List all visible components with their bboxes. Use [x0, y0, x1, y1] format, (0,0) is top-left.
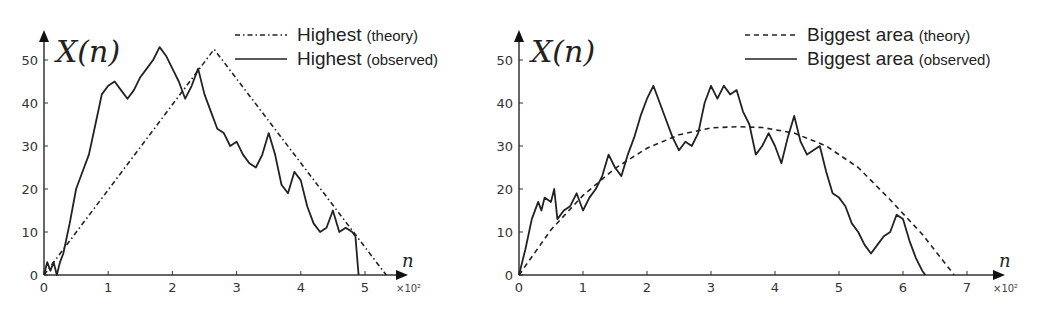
- x-tick-label: 0: [515, 280, 523, 295]
- y-axis-label: X(n): [54, 34, 120, 69]
- y-tick-label: 50: [496, 53, 513, 68]
- legend-entry: Highest(theory): [297, 24, 418, 45]
- x-tick-label: 1: [579, 280, 587, 295]
- x-tick-label: 4: [771, 280, 779, 295]
- x-axis-label: n: [999, 250, 1011, 271]
- chart-highest-plot: 01234501020304050X(n)n×10²Highest(theory…: [0, 0, 520, 309]
- x-tick-label: 1: [104, 280, 112, 295]
- y-axis-arrow-icon: [514, 30, 524, 42]
- y-tick-label: 40: [496, 96, 513, 111]
- y-tick-label: 40: [21, 96, 38, 111]
- y-tick-label: 20: [496, 182, 513, 197]
- y-tick-label: 50: [21, 53, 38, 68]
- legend-entry: Biggest area(observed): [807, 48, 990, 69]
- x-tick-label: 0: [40, 280, 48, 295]
- x-axis-label: n: [402, 250, 414, 271]
- x-axis-arrow-icon: [993, 270, 1005, 280]
- x-tick-label: 2: [643, 280, 651, 295]
- y-axis-arrow-icon: [39, 30, 49, 42]
- x-axis-arrow-icon: [396, 270, 408, 280]
- x-tick-label: 7: [963, 280, 971, 295]
- y-axis-label: X(n): [529, 34, 595, 69]
- y-tick-label: 20: [21, 182, 38, 197]
- y-tick-label: 0: [505, 268, 513, 283]
- chart-biggest-area: 0123456701020304050X(n)n×10²Biggest area…: [475, 0, 1047, 309]
- theory-series-line: [519, 127, 954, 275]
- observed-series-line: [519, 86, 925, 275]
- x-tick-label: 3: [707, 280, 715, 295]
- x-tick-label: 5: [361, 280, 369, 295]
- theory-series-line: [44, 49, 386, 275]
- legend-entry: Highest(observed): [297, 48, 438, 69]
- y-tick-label: 0: [30, 268, 38, 283]
- chart-biggest-area-plot: 0123456701020304050X(n)n×10²Biggest area…: [475, 0, 1047, 309]
- observed-series-line: [44, 47, 359, 275]
- x-scale-label: ×10²: [396, 283, 421, 294]
- chart-highest: 01234501020304050X(n)n×10²Highest(theory…: [0, 0, 520, 309]
- y-tick-label: 10: [496, 225, 513, 240]
- y-tick-label: 30: [496, 139, 513, 154]
- x-scale-label: ×10²: [993, 283, 1018, 294]
- x-tick-label: 2: [168, 280, 176, 295]
- y-tick-label: 30: [21, 139, 38, 154]
- x-tick-label: 3: [232, 280, 240, 295]
- x-tick-label: 4: [297, 280, 305, 295]
- x-tick-label: 5: [835, 280, 843, 295]
- y-tick-label: 10: [21, 225, 38, 240]
- legend-entry: Biggest area(theory): [807, 24, 970, 45]
- x-tick-label: 6: [899, 280, 907, 295]
